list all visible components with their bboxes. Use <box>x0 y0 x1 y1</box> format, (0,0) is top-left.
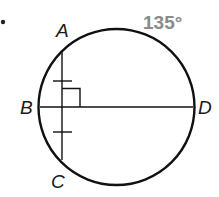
point-label-C: C <box>51 171 65 192</box>
point-label-B: B <box>20 97 33 118</box>
point-label-D: D <box>198 97 212 118</box>
circle-geometry-diagram: A B D C 135° <box>0 0 219 197</box>
point-label-A: A <box>55 20 69 41</box>
right-angle-marker <box>62 89 80 108</box>
bullet-dot <box>1 20 5 24</box>
arc-measure-label: 135° <box>143 12 182 33</box>
